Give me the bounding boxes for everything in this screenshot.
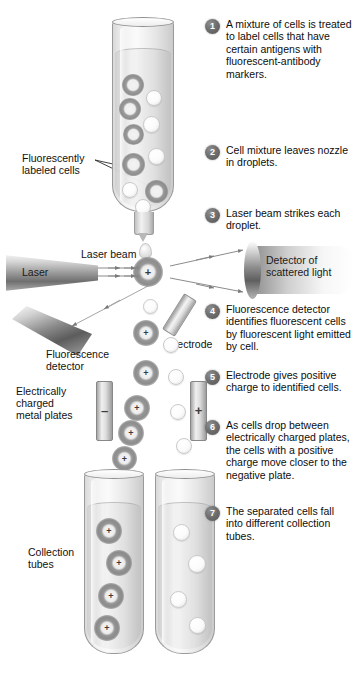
labeled-cell xyxy=(145,180,168,203)
unlabeled-cell xyxy=(122,182,138,198)
step-6-text: As cells drop between electrically charg… xyxy=(226,419,353,481)
collected-charged-cell-sign: + xyxy=(106,558,132,568)
collection-tube-right xyxy=(155,474,215,654)
nozzle-tip xyxy=(138,233,148,242)
step-7: 7 The separated cells fall into differen… xyxy=(205,505,353,542)
step-5-badge: 5 xyxy=(205,370,220,385)
collection-tube-right-gloss xyxy=(162,480,167,643)
plain-droplet xyxy=(143,299,158,314)
step-3: 3 Laser beam strikes each droplet. xyxy=(205,207,353,232)
collected-plain-cell xyxy=(188,555,206,573)
step-2-text: Cell mixture leaves nozzle in droplets. xyxy=(226,144,353,169)
charged-droplet: + xyxy=(124,395,150,421)
step-2: 2 Cell mixture leaves nozzle in droplets… xyxy=(205,144,353,169)
charged-droplet-sign: + xyxy=(133,368,159,378)
charged-droplet-sign: + xyxy=(124,403,150,413)
fluorescence-detector-label: Fluorescence detector xyxy=(46,348,109,372)
labeled-cell xyxy=(122,74,144,96)
charged-droplet: + xyxy=(112,446,137,471)
unlabeled-cell xyxy=(146,90,162,106)
labeled-cell xyxy=(123,124,144,145)
collection-tubes-label: Collection tubes xyxy=(28,546,74,570)
plain-droplet xyxy=(176,438,192,454)
laser-beam-mid-arrows xyxy=(108,268,136,276)
labeled-cell xyxy=(122,153,145,176)
positive-plate-sign: + xyxy=(191,403,206,418)
sample-tube-rim xyxy=(112,17,175,27)
collected-charged-cell: + xyxy=(98,583,124,609)
step-4-text: Fluorescence detector identifies fluores… xyxy=(226,303,353,353)
collected-plain-cell xyxy=(173,524,190,541)
collected-plain-cell xyxy=(189,617,206,634)
unlabeled-cell xyxy=(148,148,165,165)
scattered-light-rays xyxy=(170,250,243,292)
charged-droplet-sign: + xyxy=(112,453,137,463)
facs-diagram: Laser Laser beam + Detector of scattered… xyxy=(0,0,353,675)
interrogated-droplet-charge: + xyxy=(133,266,163,278)
collected-charged-cell-sign: + xyxy=(94,623,120,633)
collected-charged-cell: + xyxy=(96,518,122,544)
collected-charged-cell: + xyxy=(106,550,132,576)
collected-charged-cell-sign: + xyxy=(96,526,122,536)
collection-tube-left: + + + + xyxy=(84,474,144,654)
step-3-text: Laser beam strikes each droplet. xyxy=(226,207,353,232)
charged-droplet: + xyxy=(133,360,159,386)
negative-plate-sign: – xyxy=(97,403,112,418)
negative-plate: – xyxy=(96,381,113,441)
charged-droplet: + xyxy=(118,420,144,446)
detector-of-scattered-light-label: Detector of scattered light xyxy=(266,254,331,278)
step-6: 6 As cells drop between electrically cha… xyxy=(205,419,353,481)
plain-droplet xyxy=(163,337,179,353)
step-1-text: A mixture of cells is treated to label c… xyxy=(226,18,353,80)
nozzle xyxy=(134,212,154,235)
fluorescently-labeled-cells-label: Fluorescently labeled cells xyxy=(22,152,84,176)
plain-droplet xyxy=(168,369,184,385)
collected-plain-cell xyxy=(170,591,187,608)
collection-tube-left-rim xyxy=(84,469,145,479)
collected-charged-cell-sign: + xyxy=(98,591,124,601)
charged-droplet-sign: + xyxy=(118,428,144,438)
collection-tube-left-gloss xyxy=(91,480,96,643)
step-5: 5 Electrode gives positive charge to ide… xyxy=(205,369,353,394)
step-2-badge: 2 xyxy=(205,145,220,160)
plain-droplet xyxy=(170,404,186,420)
step-4: 4 Fluorescence detector identifies fluor… xyxy=(205,303,353,353)
fluorescence-ray xyxy=(72,286,148,326)
step-1: 1 A mixture of cells is treated to label… xyxy=(205,18,353,80)
unlabeled-cell xyxy=(143,116,160,133)
collected-charged-cell: + xyxy=(94,615,120,641)
electrode xyxy=(162,293,197,337)
scattered-light-detector-cone xyxy=(244,241,261,299)
interrogated-droplet: + xyxy=(133,257,163,287)
step-7-text: The separated cells fall into different … xyxy=(226,505,353,542)
sample-tube xyxy=(112,22,174,212)
step-1-badge: 1 xyxy=(205,19,220,34)
electrically-charged-metal-plates-label: Electrically charged metal plates xyxy=(16,385,73,421)
laser-label: Laser xyxy=(22,266,48,278)
step-3-badge: 3 xyxy=(205,208,220,223)
step-6-badge: 6 xyxy=(205,420,220,435)
labeled-cell xyxy=(119,98,141,120)
charged-droplet-sign: + xyxy=(133,328,159,338)
step-5-text: Electrode gives positive charge to ident… xyxy=(226,369,353,394)
step-7-badge: 7 xyxy=(205,506,220,521)
charged-droplet: + xyxy=(133,320,159,346)
step-4-badge: 4 xyxy=(205,304,220,319)
laser-beam-label: Laser beam xyxy=(81,248,136,260)
